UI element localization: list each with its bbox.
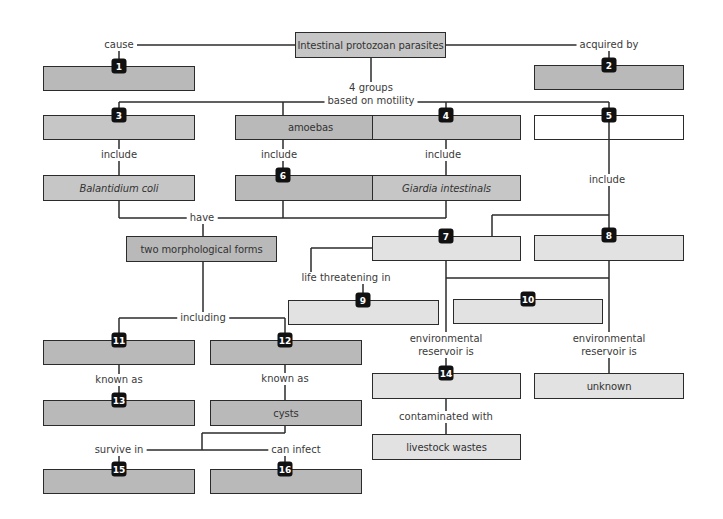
- badge-16: 16: [278, 462, 293, 477]
- link-include-3: include: [98, 149, 140, 161]
- link-include-4: include: [422, 149, 464, 161]
- link-survive-in: survive in: [92, 444, 147, 456]
- link-env-reservoir-7-line1: environmental: [410, 333, 483, 345]
- link-life-threatening-in: life threatening in: [298, 272, 393, 284]
- link-can-infect: can infect: [268, 444, 323, 456]
- badge-6: 6: [276, 168, 291, 183]
- badge-2: 2: [602, 58, 617, 73]
- link-based-on-motility: based on motility: [325, 95, 418, 107]
- badge-10: 10: [521, 292, 536, 307]
- link-4-groups: 4 groups: [349, 82, 393, 94]
- link-env-reservoir-8-line1: environmental: [573, 333, 646, 345]
- link-include-5: include: [586, 174, 628, 186]
- badge-5: 5: [602, 108, 617, 123]
- node-balantidium-coli: Balantidium coli: [43, 175, 195, 201]
- badge-15: 15: [112, 462, 127, 477]
- link-include-amoebas: include: [258, 149, 300, 161]
- node-two-morphological-forms: two morphological forms: [126, 236, 277, 262]
- link-including: including: [177, 312, 229, 324]
- link-env-reservoir-7-line2: reservoir is: [415, 346, 477, 358]
- badge-9: 9: [356, 293, 371, 308]
- node-title: Intestinal protozoan parasites: [295, 32, 446, 58]
- badge-8: 8: [602, 228, 617, 243]
- link-known-as-11: known as: [92, 374, 145, 386]
- node-6-blank[interactable]: [235, 175, 386, 201]
- link-env-reservoir-8-line2: reservoir is: [578, 346, 640, 358]
- node-amoebas: amoebas: [235, 115, 386, 140]
- link-known-as-12: known as: [258, 373, 311, 385]
- link-acquired-by: acquired by: [577, 39, 642, 51]
- node-cysts: cysts: [210, 400, 362, 426]
- badge-3: 3: [112, 108, 127, 123]
- badge-12: 12: [278, 333, 293, 348]
- link-have: have: [187, 212, 218, 224]
- node-unknown: unknown: [534, 373, 684, 399]
- badge-7: 7: [439, 229, 454, 244]
- link-contaminated-with: contaminated with: [396, 411, 496, 423]
- link-cause: cause: [101, 39, 136, 51]
- node-livestock-wastes: livestock wastes: [372, 434, 521, 460]
- badge-11: 11: [112, 333, 127, 348]
- concept-map: Intestinal protozoan parasites 1 2 3 amo…: [0, 0, 723, 519]
- badge-14: 14: [439, 366, 454, 381]
- badge-4: 4: [439, 108, 454, 123]
- badge-13: 13: [112, 393, 127, 408]
- node-title-text: Intestinal protozoan parasites: [297, 40, 443, 51]
- badge-1: 1: [112, 59, 127, 74]
- node-giardia-intestinals: Giardia intestinals: [372, 175, 521, 201]
